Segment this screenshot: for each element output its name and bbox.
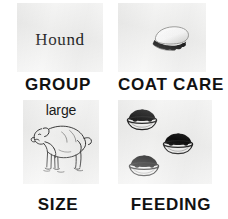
caption-size: SIZE (2, 196, 114, 213)
large-dog-illustration (25, 112, 97, 182)
cell-coat-care[interactable]: COAT CARE (114, 0, 228, 98)
cell-group[interactable]: Hound GROUP (2, 0, 114, 98)
three-food-bowls-icon (120, 104, 210, 182)
caption-feeding: FEEDING (114, 196, 228, 213)
group-panel: Hound (17, 3, 103, 72)
caption-group: GROUP (2, 76, 114, 93)
breed-attribute-grid: Hound GROUP (0, 0, 228, 219)
coat-care-panel (118, 3, 206, 72)
grooming-brush-icon (142, 19, 198, 59)
food-bowl-top-left (127, 110, 156, 130)
cell-size[interactable]: large (2, 98, 114, 219)
size-panel: large (23, 100, 99, 184)
cell-feeding[interactable]: FEEDING (114, 98, 228, 219)
food-bowl-bottom-left (129, 156, 158, 176)
food-bowl-middle-right (163, 134, 192, 154)
feeding-panel (118, 100, 212, 184)
breed-group-value: Hound (17, 31, 103, 48)
size-value-label: large (23, 103, 99, 117)
caption-coat-care: COAT CARE (114, 76, 228, 93)
